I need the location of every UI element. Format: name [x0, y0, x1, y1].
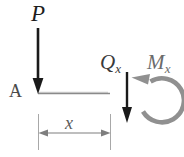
shear-label-q-symbol: Q	[100, 50, 115, 74]
moment-arc-m-head	[132, 74, 151, 85]
load-arrow-p	[33, 28, 44, 94]
shear-label-q-subscript: x	[115, 61, 121, 76]
diagram-canvas	[0, 0, 184, 157]
moment-arc-m	[132, 74, 184, 122]
shear-arrow-q	[122, 72, 132, 123]
moment-arc-m-path	[143, 78, 184, 122]
dimension-label-x: x	[65, 114, 73, 132]
shear-label-q: Qx	[100, 52, 121, 73]
load-label-p: P	[31, 2, 45, 25]
shear-arrow-q-head	[122, 107, 132, 123]
support-label-a: A	[9, 82, 22, 100]
dimension-arrowhead-right	[101, 130, 111, 137]
load-arrow-p-head	[33, 78, 44, 94]
dimension-arrowhead-left	[39, 130, 49, 137]
moment-label-m-subscript: x	[165, 61, 171, 76]
dimension-x	[39, 114, 111, 150]
beam-free-body-diagram: P A Qx Mx x	[0, 0, 184, 157]
moment-label-m: Mx	[147, 52, 170, 73]
moment-label-m-symbol: M	[147, 50, 165, 74]
